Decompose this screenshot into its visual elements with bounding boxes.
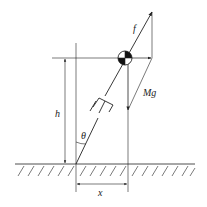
- center-of-mass-icon: [118, 51, 132, 65]
- force-label: f: [133, 23, 137, 34]
- weight-label: Mg: [142, 87, 156, 98]
- x-label: x: [97, 187, 103, 198]
- angle-arc: [76, 142, 86, 144]
- leg-with-damper: [76, 12, 152, 164]
- height-label: h: [55, 108, 60, 119]
- angle-label: θ: [81, 130, 86, 141]
- ground: [15, 164, 195, 176]
- pendulum-diagram: f Mg h θ x: [0, 0, 207, 207]
